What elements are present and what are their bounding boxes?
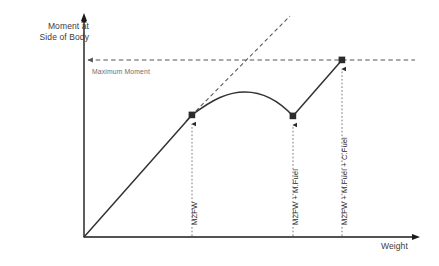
y-axis-arrowhead xyxy=(81,13,87,21)
moment-vs-weight-diagram: Moment at Side of Body Weight Maximum Mo… xyxy=(0,0,439,266)
marker-mzfw-mfuel-cfuel xyxy=(339,57,346,64)
x-axis-label: Weight xyxy=(381,241,408,252)
tick-label-mzfw-mfuel: MZFW + M.Fuel xyxy=(291,169,300,225)
moment-curve xyxy=(84,60,342,237)
tick-label-mzfw: MZFW xyxy=(190,202,199,225)
tick-label-mzfw-mfuel-cfuel: MZFW + M.Fuel + C.Fuel xyxy=(340,137,349,225)
y-axis-label: Moment at Side of Body xyxy=(17,21,89,43)
maximum-moment-label: Maximum Moment xyxy=(92,68,150,75)
x-axis-arrowhead xyxy=(412,234,420,240)
linear-trend-extension xyxy=(186,16,290,121)
marker-mzfw-mfuel xyxy=(290,113,297,120)
marker-mzfw xyxy=(189,112,196,119)
